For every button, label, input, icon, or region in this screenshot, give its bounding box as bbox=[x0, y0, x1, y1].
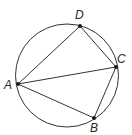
point-B bbox=[92, 116, 96, 120]
geometry-diagram: ABCD bbox=[0, 0, 132, 135]
label-D: D bbox=[75, 8, 84, 22]
label-A: A bbox=[3, 78, 12, 92]
point-D bbox=[78, 24, 82, 28]
diagram-svg: ABCD bbox=[0, 0, 132, 135]
label-C: C bbox=[117, 52, 126, 66]
segment-AC bbox=[18, 67, 116, 84]
point-A bbox=[16, 82, 20, 86]
segment-DC bbox=[80, 26, 116, 67]
segment-BA bbox=[18, 84, 94, 118]
label-B: B bbox=[90, 121, 98, 135]
